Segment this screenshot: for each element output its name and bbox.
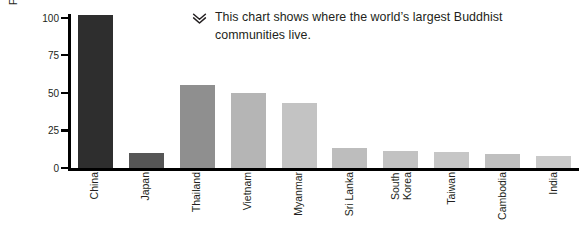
double-chevron-down-icon (192, 11, 207, 29)
annotation-text: This chart shows where the world’s large… (215, 9, 532, 44)
bar (78, 15, 113, 168)
bar (434, 152, 469, 168)
x-axis-label: Taiwan (424, 172, 480, 228)
x-axis-label: Cambodia (475, 172, 531, 228)
y-tick-label: 100 (42, 12, 59, 23)
y-tick-mark (61, 167, 68, 169)
y-tick-mark (61, 54, 68, 56)
x-axis-label: China (67, 172, 123, 228)
y-axis-title: People (millions) (2, 0, 24, 38)
x-axis-label: Japan (118, 172, 174, 228)
chart-figure: People (millions) 0255075100 ChinaJapanT… (0, 0, 587, 228)
y-tick-label: 75 (48, 50, 59, 61)
y-tick-mark (61, 17, 68, 19)
bar-slot (536, 10, 571, 168)
bar (485, 154, 520, 168)
bar (129, 153, 164, 168)
y-tick-mark (61, 129, 68, 131)
bar (332, 148, 367, 168)
y-tick-label: 25 (48, 125, 59, 136)
bar-slot (78, 10, 113, 168)
y-tick-label: 0 (53, 163, 59, 174)
x-axis-label: India (526, 172, 582, 228)
bar (536, 156, 571, 168)
x-axis-labels: ChinaJapanThailandVietnamMyanmarSri Lank… (70, 172, 579, 228)
y-tick-label: 50 (48, 87, 59, 98)
bar (180, 85, 215, 168)
y-tick-mark (61, 92, 68, 94)
bar (383, 151, 418, 168)
bar (282, 103, 317, 168)
x-axis-label: Myanmar (271, 172, 327, 228)
x-axis-label: Thailand (169, 172, 225, 228)
bar (231, 93, 266, 168)
x-axis-label: SouthKorea (373, 172, 429, 228)
bar-slot (129, 10, 164, 168)
chart-annotation: This chart shows where the world’s large… (192, 9, 532, 44)
x-axis-label: Vietnam (220, 172, 276, 228)
x-axis-spine (68, 168, 579, 171)
x-axis-label: Sri Lanka (322, 172, 378, 228)
